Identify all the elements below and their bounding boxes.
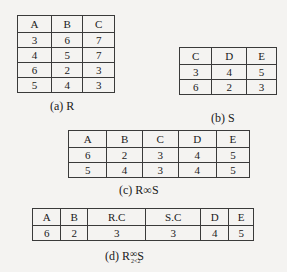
header-cell: E xyxy=(247,48,277,65)
cell: 7 xyxy=(83,48,115,63)
cell: 3 xyxy=(142,163,178,178)
header-cell: A xyxy=(69,131,107,148)
table-row: 6 2 3 xyxy=(18,63,115,78)
cell: 4 xyxy=(18,48,52,63)
table-row: 4 5 7 xyxy=(18,48,115,63)
header-cell: C xyxy=(83,16,115,33)
cell: 7 xyxy=(83,33,115,48)
header-cell: D xyxy=(201,209,229,226)
caption-prefix: (d) R xyxy=(105,249,130,263)
caption-s: (b) S xyxy=(211,111,235,126)
table-s: C D E 3 4 5 6 2 3 xyxy=(179,47,277,95)
cell: 6 xyxy=(180,80,212,95)
cell: 2 xyxy=(51,63,83,78)
header-cell: C xyxy=(180,48,212,65)
cell: 4 xyxy=(201,226,229,241)
header-cell: E xyxy=(216,131,249,148)
join-operator-icon: ∞ xyxy=(143,183,152,197)
join-condition: 2<2 xyxy=(131,258,140,264)
table-row: 3 4 5 xyxy=(180,65,277,80)
table-row: 6 2 3 4 5 xyxy=(69,148,250,163)
cell: 3 xyxy=(83,63,115,78)
cell: 2 xyxy=(212,80,247,95)
cell: 4 xyxy=(178,163,216,178)
caption-natural-join: (c) R∞S xyxy=(119,183,159,198)
table-row: 3 6 7 xyxy=(18,33,115,48)
header-cell: B xyxy=(51,16,83,33)
table-row: 6 2 3 xyxy=(180,80,277,95)
header-cell: S.C xyxy=(146,209,201,226)
header-cell: D xyxy=(212,48,247,65)
header-cell: D xyxy=(178,131,216,148)
cell: 5 xyxy=(216,148,249,163)
header-cell: B xyxy=(107,131,143,148)
table-row: 5 4 3 4 5 xyxy=(69,163,250,178)
cell: 3 xyxy=(146,226,201,241)
cell: 5 xyxy=(18,78,52,93)
cell: 5 xyxy=(69,163,107,178)
cell: 3 xyxy=(18,33,52,48)
caption-suffix: S xyxy=(152,183,159,197)
cell: 5 xyxy=(247,65,277,80)
cell: 5 xyxy=(229,226,254,241)
caption-r: (a) R xyxy=(50,99,74,114)
table-row: 6 2 3 3 4 5 xyxy=(33,226,254,241)
header-cell: R.C xyxy=(87,209,146,226)
cell: 3 xyxy=(142,148,178,163)
cell: 5 xyxy=(216,163,249,178)
cell: 3 xyxy=(247,80,277,95)
table-row: 5 4 3 xyxy=(18,78,115,93)
cell: 2 xyxy=(107,148,143,163)
table-r: A B C 3 6 7 4 5 7 6 2 3 5 4 3 xyxy=(17,15,115,93)
cell: 3 xyxy=(180,65,212,80)
table-natural-join: A B C D E 6 2 3 4 5 5 4 3 4 5 xyxy=(68,130,250,178)
caption-theta-join: (d) R∞2<2S xyxy=(105,249,144,264)
cell: 6 xyxy=(33,226,61,241)
cell: 4 xyxy=(107,163,143,178)
cell: 3 xyxy=(83,78,115,93)
cell: 6 xyxy=(18,63,52,78)
table-theta-join: A B R.C S.C D E 6 2 3 3 4 5 xyxy=(32,208,254,241)
header-cell: E xyxy=(229,209,254,226)
cell: 4 xyxy=(178,148,216,163)
header-cell: A xyxy=(33,209,61,226)
header-cell: B xyxy=(61,209,87,226)
cell: 3 xyxy=(87,226,146,241)
join-operator-with-condition: ∞2<2 xyxy=(130,249,137,264)
table-header-row: C D E xyxy=(180,48,277,65)
table-header-row: A B C xyxy=(18,16,115,33)
cell: 6 xyxy=(69,148,107,163)
header-cell: A xyxy=(18,16,52,33)
cell: 4 xyxy=(51,78,83,93)
table-header-row: A B C D E xyxy=(69,131,250,148)
caption-prefix: (c) R xyxy=(119,183,143,197)
cell: 4 xyxy=(212,65,247,80)
cell: 2 xyxy=(61,226,87,241)
header-cell: C xyxy=(142,131,178,148)
cell: 5 xyxy=(51,48,83,63)
cell: 6 xyxy=(51,33,83,48)
table-header-row: A B R.C S.C D E xyxy=(33,209,254,226)
